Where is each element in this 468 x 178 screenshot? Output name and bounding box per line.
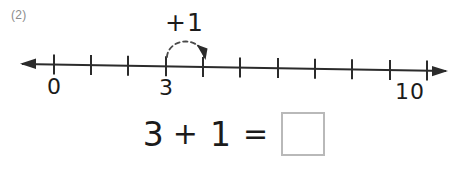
answer-input-box[interactable]: [281, 112, 325, 156]
number-line-axis: [22, 64, 446, 71]
equation-row: 3 + 1 =: [0, 112, 468, 156]
right-arrowhead-icon: [432, 66, 448, 76]
hop-arc: [167, 42, 204, 58]
plus-operator: +: [173, 119, 198, 149]
tick-label-3: 3: [159, 75, 173, 100]
tick-label-10: 10: [395, 79, 425, 104]
equation-second-term: 1: [207, 118, 234, 151]
left-arrowhead-icon: [20, 59, 36, 69]
tick-marks: [54, 55, 427, 81]
tick-label-0: 0: [47, 74, 61, 99]
hop-label: +1: [165, 8, 204, 37]
equals-operator: =: [243, 119, 268, 149]
worksheet-problem: (2) +1 0 3 10 3 +: [0, 0, 468, 178]
equation-first-term: 3: [143, 118, 164, 151]
